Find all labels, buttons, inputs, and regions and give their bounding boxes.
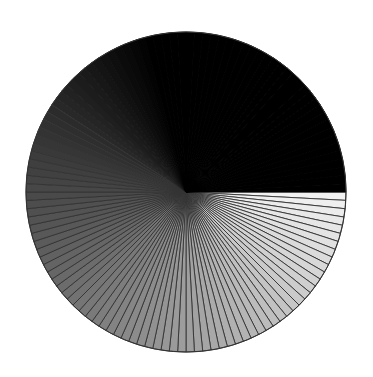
pie-chart-svg — [0, 0, 373, 377]
pie-chart — [0, 0, 373, 377]
